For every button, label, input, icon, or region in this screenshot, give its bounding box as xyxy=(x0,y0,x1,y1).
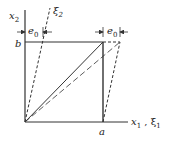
e0-left-label: e0 xyxy=(28,25,38,39)
x1-xi1-label: x1 , ξ1 xyxy=(131,116,161,130)
diagonal-original xyxy=(25,42,103,122)
xi2-label: ξ2 xyxy=(53,5,64,19)
b-label: b xyxy=(15,38,21,49)
e0-right-label: e0 xyxy=(107,25,117,39)
shear-deformation-diagram: x2 ξ2 e0 e0 b a x1 , ξ1 xyxy=(0,0,169,141)
x2-label: x2 xyxy=(9,10,19,24)
a-label: a xyxy=(99,126,105,137)
deformed-right-side xyxy=(103,42,120,122)
